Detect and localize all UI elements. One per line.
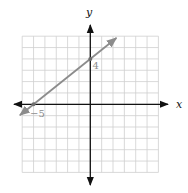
y-axis-label: y (85, 6, 93, 19)
x-intercept-point (32, 102, 36, 106)
x-axis-label: x (176, 98, 183, 111)
x-intercept-label: −5 (30, 108, 45, 119)
coordinate-plane: y x 4 −5 (0, 0, 188, 193)
y-intercept-label: 4 (93, 60, 99, 71)
